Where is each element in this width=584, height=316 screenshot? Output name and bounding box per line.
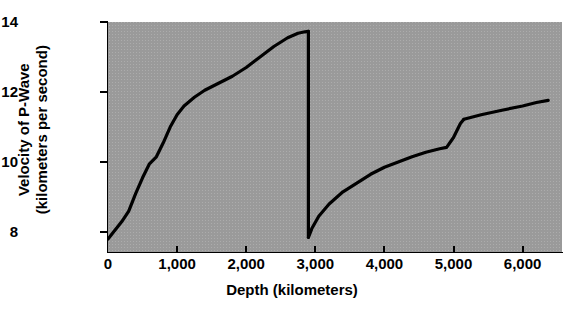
x-tick-label-6000: 6,000 [504, 256, 542, 271]
plot-area [108, 22, 562, 252]
x-tick-6000 [522, 246, 524, 253]
x-tick-1000 [176, 246, 178, 253]
x-tick-label-5000: 5,000 [435, 256, 473, 271]
y-axis-line [107, 22, 108, 253]
x-tick-5000 [453, 246, 455, 253]
x-tick-2000 [245, 246, 247, 253]
x-tick-label-4000: 4,000 [366, 256, 404, 271]
x-tick-label-1000: 1,000 [158, 256, 196, 271]
x-tick-label-2000: 2,000 [227, 256, 265, 271]
x-tick-label-3000: 3,000 [297, 256, 335, 271]
data-series-group [108, 31, 548, 239]
p-wave-velocity-chart: 8101214 01,0002,0003,0004,0005,0006,000 … [0, 0, 584, 316]
plot-svg [108, 22, 562, 252]
y-tick-10 [100, 161, 108, 163]
x-axis-title: Depth (kilometers) [0, 281, 584, 298]
y-tick-12 [100, 91, 108, 93]
series-line-2 [308, 119, 463, 237]
y-axis-title: Velocity of P-Wave (kilometers per secon… [15, 5, 50, 255]
series-line-3 [464, 100, 548, 119]
y-axis-title-line-2: (kilometers per second) [33, 5, 51, 255]
y-axis-title-line-1: Velocity of P-Wave [15, 5, 33, 255]
x-tick-label-0: 0 [104, 256, 112, 271]
x-tick-4000 [383, 246, 385, 253]
y-tick-8 [100, 231, 108, 233]
y-tick-14 [100, 21, 108, 23]
series-line-0 [108, 31, 308, 239]
x-tick-3000 [314, 246, 316, 253]
